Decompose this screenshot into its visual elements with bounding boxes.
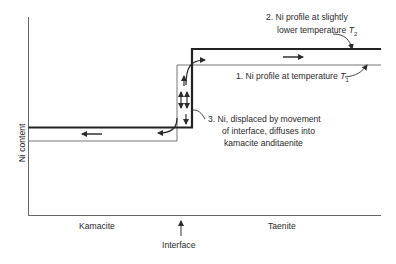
annotation-3-number: 3. <box>208 114 215 124</box>
annotation-2-line2-wrap: lower temperature T2 <box>277 25 357 39</box>
region-label-kamacite: Kamacite <box>79 221 115 232</box>
annotation-3: 3. Ni, displaced by movement <box>208 114 321 125</box>
annotation-2-line1: Ni profile at slightly <box>276 12 348 22</box>
leader-3 <box>193 110 205 119</box>
annotation-2-number: 2. <box>266 12 273 22</box>
annotation-3-line1: Ni, displaced by movement <box>218 114 321 124</box>
curved-arrow-bottom-icon <box>158 118 177 133</box>
ni-profile-diagram <box>0 0 396 264</box>
annotation-2-line2: lower temperature <box>277 25 346 35</box>
annotation-1: 1. Ni profile at temperature T1 <box>236 71 349 85</box>
region-label-taenite: Taenite <box>268 221 296 232</box>
t2-subscript: 2 <box>354 31 357 37</box>
y-axis-label: Ni content <box>17 113 27 173</box>
annotation-1-text: Ni profile at temperature <box>246 71 338 81</box>
annotation-3-line2: of interface, diffuses into <box>222 126 315 137</box>
curved-arrow-top-icon <box>186 60 205 85</box>
annotation-3-line3: kamacite anditaenite <box>224 138 303 149</box>
annotation-2: 2. Ni profile at slightly <box>266 12 348 23</box>
interface-label: Interface <box>162 240 195 251</box>
axes <box>28 17 381 216</box>
annotation-1-number: 1. <box>236 71 243 81</box>
t1-subscript: 1 <box>345 77 348 83</box>
t2-profile-line <box>29 49 382 128</box>
